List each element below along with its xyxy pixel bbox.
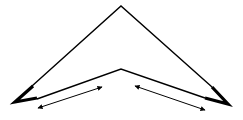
outer-edge [32,6,212,87]
right-double-arrow-icon [135,86,205,110]
inner-edge [37,69,205,99]
left-double-arrow-icon [38,87,102,108]
left-tip [15,86,37,102]
chevron-diagram [0,0,243,120]
right-tip [205,87,228,104]
